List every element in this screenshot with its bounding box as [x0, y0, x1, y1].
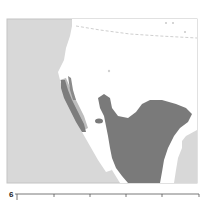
island-mark	[184, 31, 186, 33]
distribution-map	[0, 0, 208, 200]
island-mark	[165, 22, 167, 24]
island-mark	[172, 22, 174, 24]
chart-y-tick-label: 6	[9, 191, 13, 199]
lake-mark	[108, 70, 110, 72]
chart-x-ticks	[54, 194, 199, 197]
distribution-patch	[95, 119, 103, 124]
